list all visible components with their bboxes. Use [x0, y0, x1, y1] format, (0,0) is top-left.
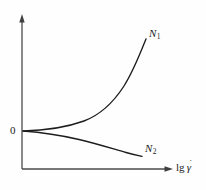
series-label-n2: N2: [145, 143, 156, 154]
y-axis-arrow-icon: [19, 14, 24, 23]
origin-label: 0: [10, 125, 16, 136]
series-label-n2-text: N: [145, 142, 152, 154]
curve-n1: [23, 39, 146, 131]
curve-n2: [23, 131, 142, 156]
figure-container: 0 N1 N2 lg γ·: [0, 0, 206, 190]
curves-group: [23, 39, 146, 156]
series-label-n1: N1: [149, 28, 160, 39]
x-axis-label: lg γ·: [176, 162, 191, 173]
series-label-n2-sub: 2: [153, 147, 157, 156]
series-label-n1-sub: 1: [157, 32, 161, 41]
x-axis-arrow-icon: [165, 166, 174, 171]
series-label-n1-text: N: [149, 27, 156, 39]
gamma-dot-icon: ·: [189, 156, 192, 165]
x-axis-label-gamma: γ·: [187, 161, 191, 173]
